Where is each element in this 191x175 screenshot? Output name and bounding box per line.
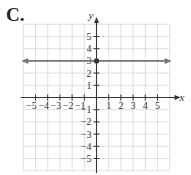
y-tick-label: 2 — [87, 68, 92, 79]
y-intercept-point — [94, 58, 99, 63]
x-tick-label: 4 — [143, 100, 148, 111]
y-tick-label: −2 — [81, 116, 92, 127]
x-tick-label: −5 — [26, 100, 37, 111]
x-tick-label: 2 — [118, 100, 123, 111]
y-tick-label: 4 — [87, 43, 92, 54]
right-arrow-icon — [165, 58, 172, 64]
x-axis-label: x — [178, 91, 184, 103]
x-tick-label: −3 — [51, 100, 62, 111]
y-tick-label: 1 — [87, 80, 92, 91]
y-axis-arrow-icon — [94, 17, 99, 23]
x-tick-label: −4 — [38, 100, 49, 111]
coordinate-plane: −5−4−3−2−11234554321−1−2−3−4−5xy — [0, 0, 191, 175]
y-tick-label: −4 — [81, 141, 92, 152]
y-tick-label: −1 — [81, 104, 92, 115]
x-tick-label: 3 — [131, 100, 136, 111]
y-tick-label: −3 — [81, 129, 92, 140]
left-arrow-icon — [21, 58, 28, 64]
x-tick-label: 5 — [155, 100, 160, 111]
y-axis-label: y — [88, 9, 94, 21]
x-tick-label: −2 — [63, 100, 74, 111]
y-tick-label: −5 — [81, 153, 92, 164]
x-tick-label: 1 — [106, 100, 111, 111]
y-tick-label: 5 — [87, 31, 92, 42]
